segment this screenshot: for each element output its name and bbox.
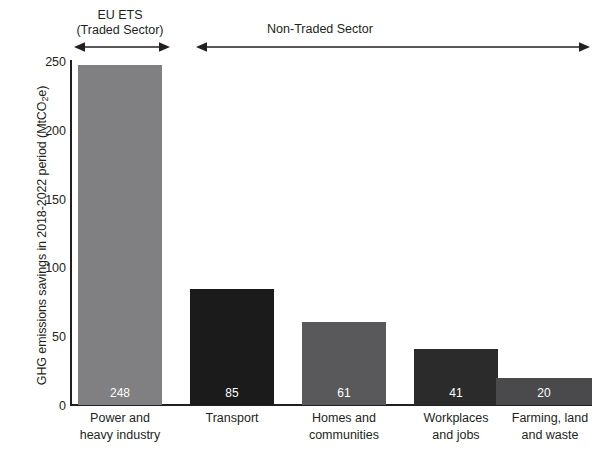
y-tick-200: 200 [30, 125, 66, 138]
category-label-line2: heavy industry [61, 427, 179, 444]
y-tick-50: 50 [30, 331, 66, 344]
double-headed-arrow-icon-traded-sector [74, 40, 170, 54]
category-label-line2: and waste [491, 427, 609, 444]
bar-slot-farming-land-and-waste: 20 [496, 60, 592, 405]
y-tick-250: 250 [30, 56, 66, 69]
bar-value-transport: 85 [190, 387, 274, 399]
bar-value-farming-land-and-waste: 20 [496, 387, 592, 399]
y-tick-150: 150 [30, 194, 66, 207]
plot-area: 248 85 61 41 20 [72, 60, 592, 405]
bar-power-and-heavy-industry[interactable]: 248 [78, 65, 162, 405]
x-axis-category-labels: Power and heavy industry Transport Homes… [72, 410, 592, 450]
category-label-line1: Transport [173, 410, 291, 427]
bar-slot-workplaces-and-jobs: 41 [414, 60, 498, 405]
bar-chart: GHG emissions savings in 2018-2022 perio… [0, 0, 614, 451]
annotation-traded-line2: (Traded Sector) [63, 23, 177, 38]
category-label-line1: Homes and [285, 410, 403, 427]
category-label-line1: Power and [61, 410, 179, 427]
double-headed-arrow-icon-non-traded-sector [196, 40, 590, 54]
annotation-title-traded-sector: EU ETS (Traded Sector) [63, 8, 177, 38]
category-label-line2: communities [285, 427, 403, 444]
category-label-line1: Farming, land [491, 410, 609, 427]
bar-transport[interactable]: 85 [190, 289, 274, 405]
y-axis-tick-labels: 0 50 100 150 200 250 [24, 0, 66, 451]
bar-value-homes-and-communities: 61 [302, 387, 386, 399]
bar-value-workplaces-and-jobs: 41 [414, 387, 498, 399]
bar-homes-and-communities[interactable]: 61 [302, 322, 386, 406]
category-label-farming-land-and-waste: Farming, land and waste [491, 410, 609, 444]
bar-slot-homes-and-communities: 61 [302, 60, 386, 405]
category-label-homes-and-communities: Homes and communities [285, 410, 403, 444]
annotation-non-traded-line1: Non-Traded Sector [230, 22, 410, 37]
bar-value-power-and-heavy-industry: 248 [78, 387, 162, 399]
annotation-traded-line1: EU ETS [63, 8, 177, 23]
bar-slot-power-and-heavy-industry: 248 [78, 60, 162, 405]
y-tick-100: 100 [30, 262, 66, 275]
category-label-transport: Transport [173, 410, 291, 427]
bar-workplaces-and-jobs[interactable]: 41 [414, 349, 498, 405]
bar-farming-land-and-waste[interactable]: 20 [496, 378, 592, 405]
category-label-power-and-heavy-industry: Power and heavy industry [61, 410, 179, 444]
annotation-title-non-traded-sector: Non-Traded Sector [230, 22, 410, 37]
bar-slot-transport: 85 [190, 60, 274, 405]
